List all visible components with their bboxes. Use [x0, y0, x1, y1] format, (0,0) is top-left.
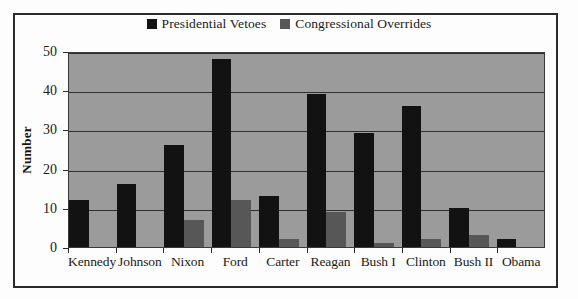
x-axis-tick — [163, 248, 211, 253]
bar-group — [117, 53, 165, 247]
x-axis-label: Nixon — [164, 254, 212, 270]
bar-group — [212, 53, 260, 247]
y-axis-tick-label: 40 — [43, 84, 63, 98]
bar-vetoes — [69, 200, 89, 247]
x-axis-tick — [307, 248, 355, 253]
x-axis-tick-mark — [68, 248, 69, 253]
bar-group — [402, 53, 450, 247]
bar-overrides — [184, 220, 204, 247]
x-axis-tick-mark — [402, 248, 403, 253]
bar-overrides — [374, 243, 394, 247]
x-axis: KennedyJohnsonNixonFordCarterReaganBush … — [68, 248, 545, 282]
bar-overrides — [326, 212, 346, 247]
x-axis-label: Reagan — [307, 254, 355, 270]
bar-vetoes — [212, 59, 232, 247]
bar-vetoes — [117, 184, 137, 247]
x-axis-tick-mark — [211, 248, 212, 253]
x-axis-tick — [497, 248, 545, 253]
x-axis-tick-mark — [163, 248, 164, 253]
bar-group — [497, 53, 545, 247]
x-axis-tick-mark — [307, 248, 308, 253]
bar-group — [307, 53, 355, 247]
y-axis-tick-label: 30 — [43, 123, 63, 137]
x-axis-label: Clinton — [402, 254, 450, 270]
bar-group — [259, 53, 307, 247]
x-axis-label: Kennedy — [68, 254, 116, 270]
x-axis-tick — [402, 248, 450, 253]
x-axis-tick — [116, 248, 164, 253]
bar-vetoes — [497, 239, 517, 247]
x-axis-tick — [211, 248, 259, 253]
x-axis-label: Ford — [211, 254, 259, 270]
bar-overrides — [231, 200, 251, 247]
bar-vetoes — [164, 145, 184, 247]
bar-vetoes — [259, 196, 279, 247]
x-axis-label: Johnson — [116, 254, 164, 270]
bar-group — [69, 53, 117, 247]
x-axis-label: Bush I — [354, 254, 402, 270]
x-axis-tick — [259, 248, 307, 253]
y-axis-tick-label: 0 — [50, 241, 63, 255]
x-axis-label: Carter — [259, 254, 307, 270]
bar-vetoes — [307, 94, 327, 247]
bar-group — [354, 53, 402, 247]
y-axis-tick-label: 50 — [43, 45, 63, 59]
x-axis-ticks — [68, 248, 545, 253]
chart-figure: Presidential VetoesCongressional Overrid… — [0, 0, 578, 299]
y-axis: 01020304050 — [0, 52, 68, 248]
bar-group — [449, 53, 497, 247]
x-axis-tick — [354, 248, 402, 253]
x-axis-tick-mark — [497, 248, 498, 253]
x-axis-tick-mark — [450, 248, 451, 253]
bar-vetoes — [354, 133, 374, 247]
y-axis-tick-label: 10 — [43, 202, 63, 216]
bar-vetoes — [402, 106, 422, 247]
y-axis-tick-label: 20 — [43, 163, 63, 177]
plot-area — [68, 52, 545, 248]
x-axis-tick-mark — [116, 248, 117, 253]
bar-group — [164, 53, 212, 247]
bar-vetoes — [449, 208, 469, 247]
x-axis-tick — [68, 248, 116, 253]
bar-overrides — [421, 239, 441, 247]
x-axis-label: Obama — [497, 254, 545, 270]
x-axis-label: Bush II — [450, 254, 498, 270]
x-axis-labels: KennedyJohnsonNixonFordCarterReaganBush … — [68, 254, 545, 270]
x-axis-tick-mark — [354, 248, 355, 253]
bar-overrides — [469, 235, 489, 247]
x-axis-tick-mark — [259, 248, 260, 253]
bar-overrides — [279, 239, 299, 247]
x-axis-tick — [450, 248, 498, 253]
bars-layer — [69, 53, 544, 247]
